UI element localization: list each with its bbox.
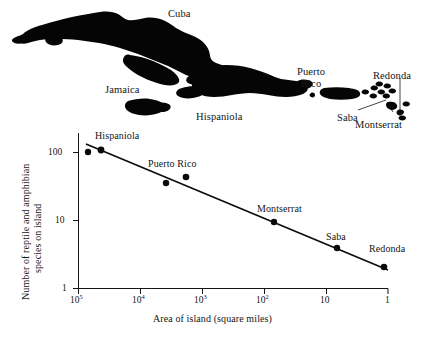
point-montserrat [271, 219, 277, 225]
chart-label-hispaniola: Hispaniola [95, 130, 139, 141]
y-axis-title-line1: Number of reptile and amphibian [20, 164, 31, 300]
species-area-chart: 100 10 1 105 104 103 102 10 1 Area of is… [0, 0, 430, 339]
x-tick-label-1e1: 10 [320, 295, 330, 305]
y-tick-label-1: 1 [62, 283, 67, 293]
point-redonda [381, 264, 388, 271]
regression-line [86, 144, 388, 270]
chart-label-puerto-rico: Puerto Rico [148, 158, 197, 169]
data-points [85, 147, 388, 271]
chart-axes [73, 133, 388, 294]
y-tick-label-10: 10 [55, 215, 65, 225]
x-tick-label-1e2: 102 [256, 295, 269, 305]
x-tick-label-1e5: 105 [70, 295, 83, 305]
chart-label-redonda: Redonda [369, 243, 405, 254]
y-axis-title-line2: species on island [32, 204, 43, 273]
x-tick-label-1e4: 104 [132, 295, 145, 305]
point-saba [334, 245, 340, 251]
point-puerto-rico [183, 174, 190, 181]
x-tick-label-1e3: 103 [194, 295, 207, 305]
x-tick-label-1e0: 1 [385, 295, 390, 305]
y-tick-label-100: 100 [48, 147, 62, 157]
species-area-figure: Cuba Jamaica Hispaniola Puerto Rico Redo… [0, 0, 430, 339]
chart-label-saba: Saba [326, 231, 346, 242]
x-axis-title: Area of island (square miles) [153, 313, 272, 324]
point-cuba [85, 149, 91, 155]
chart-label-montserrat: Montserrat [257, 203, 302, 214]
point-jamaica [163, 180, 169, 186]
point-hispaniola [98, 147, 105, 154]
